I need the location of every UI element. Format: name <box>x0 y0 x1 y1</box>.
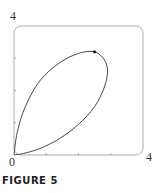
figure-caption: FIGURE 5 <box>2 175 58 186</box>
curve-line <box>14 51 108 155</box>
marked-point <box>93 50 96 53</box>
plot-area <box>0 0 163 193</box>
axis-ticks <box>14 58 111 155</box>
